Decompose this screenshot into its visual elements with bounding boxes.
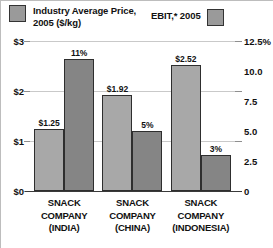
- bar-label-ebit-china: 5%: [141, 120, 153, 130]
- y2tick-mark-12-5: [235, 41, 242, 42]
- ytick-label-3: $3: [13, 36, 24, 47]
- plot-area: $3 $2 $1 $0 12.5% 10.0 7.5 5.0 2.5 0 $1.…: [30, 41, 235, 191]
- x-axis-labels: SNACK COMPANY (INDIA) SNACK COMPANY (CHI…: [30, 197, 235, 235]
- bar-price-indonesia[interactable]: $2.52: [171, 65, 201, 191]
- y2tick-label-0: 0: [244, 186, 249, 197]
- legend-label-price: Industry Average Price, 2005 ($/kg): [33, 5, 136, 28]
- bar-price-india[interactable]: $1.25: [34, 129, 64, 192]
- y2tick-label-7-5: 7.5: [244, 96, 257, 107]
- y2tick-label-2-5: 2.5: [244, 156, 257, 167]
- bar-label-ebit-indonesia: 3%: [210, 144, 222, 154]
- legend-item-price: Industry Average Price, 2005 ($/kg): [9, 5, 136, 28]
- ytick-label-0: $0: [13, 186, 24, 197]
- y2tick-label-12-5: 12.5%: [244, 36, 271, 47]
- bar-group-china: $1.92 5%: [98, 41, 166, 191]
- legend-item-ebit: EBIT,* 2005: [151, 10, 224, 26]
- x-label-indonesia: SNACK COMPANY (INDONESIA): [167, 197, 235, 235]
- chart-container: Industry Average Price, 2005 ($/kg) EBIT…: [0, 0, 273, 248]
- legend-label-ebit: EBIT,* 2005: [151, 10, 201, 22]
- bar-groups: $1.25 11% $1.92 5% $2.52 3%: [30, 41, 235, 191]
- x-label-china: SNACK COMPANY (CHINA): [98, 197, 166, 235]
- y2tick-mark-7-5: [235, 91, 242, 92]
- ytick-label-2: $2: [13, 86, 24, 97]
- bar-label-ebit-india: 11%: [71, 48, 88, 58]
- y2tick-label-10: 10.0: [244, 66, 263, 77]
- bar-ebit-indonesia[interactable]: 3%: [201, 155, 231, 191]
- bar-group-india: $1.25 11%: [30, 41, 98, 191]
- ytick-label-1: $1: [13, 136, 24, 147]
- y2tick-mark-2-5: [235, 141, 242, 142]
- y2tick-label-5: 5.0: [244, 126, 257, 137]
- bar-price-china[interactable]: $1.92: [102, 95, 132, 191]
- bar-label-price-india: $1.25: [39, 118, 60, 128]
- legend-swatch-ebit-icon: [207, 9, 224, 26]
- legend-swatch-price-icon: [9, 5, 26, 22]
- chart-legend: Industry Average Price, 2005 ($/kg) EBIT…: [1, 1, 273, 33]
- bar-label-price-china: $1.92: [107, 84, 128, 94]
- x-label-india: SNACK COMPANY (INDIA): [30, 197, 98, 235]
- bar-group-indonesia: $2.52 3%: [167, 41, 235, 191]
- bar-label-price-indonesia: $2.52: [175, 54, 196, 64]
- x-axis-baseline: [25, 191, 242, 193]
- bar-ebit-china[interactable]: 5%: [132, 131, 162, 191]
- bar-ebit-india[interactable]: 11%: [64, 59, 94, 191]
